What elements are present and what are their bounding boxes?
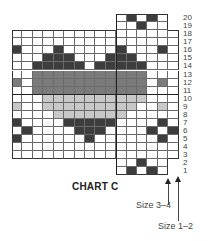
chart-cell <box>95 151 105 159</box>
chart-cell <box>85 135 95 143</box>
chart-cell <box>54 54 64 62</box>
chart-cell <box>54 119 64 127</box>
chart-cell <box>22 54 32 62</box>
chart-cell <box>95 46 105 54</box>
chart-cell <box>22 143 32 151</box>
chart-cell <box>116 38 126 46</box>
chart-cell <box>147 135 157 143</box>
row-number-label: 19 <box>183 22 192 30</box>
chart-cell <box>33 62 43 70</box>
chart-cell <box>43 95 53 103</box>
chart-cell <box>75 38 85 46</box>
chart-cell <box>127 62 137 70</box>
chart-cell <box>106 103 116 111</box>
row-number-label: 7 <box>183 119 187 127</box>
chart-cell <box>116 30 126 38</box>
chart-cell <box>54 30 64 38</box>
chart-cell <box>12 119 22 127</box>
chart-cell <box>33 151 43 159</box>
chart-cell <box>137 135 147 143</box>
chart-cell <box>85 79 95 87</box>
chart-cell <box>85 119 95 127</box>
row-number-label: 8 <box>183 111 187 119</box>
chart-cell <box>137 111 147 119</box>
row-number-label: 6 <box>183 127 187 135</box>
chart-cell <box>116 103 126 111</box>
chart-cell <box>75 95 85 103</box>
chart-cell <box>158 14 168 22</box>
chart-cell <box>85 127 95 135</box>
chart-cell <box>106 119 116 127</box>
chart-cell <box>168 119 178 127</box>
chart-cell <box>106 38 116 46</box>
chart-cell <box>158 30 168 38</box>
chart-cell <box>54 71 64 79</box>
chart-cell <box>33 38 43 46</box>
chart-cell <box>127 54 137 62</box>
chart-cell <box>137 54 147 62</box>
chart-cell <box>95 54 105 62</box>
chart-cell <box>75 111 85 119</box>
chart-cell <box>95 38 105 46</box>
chart-cell <box>147 79 157 87</box>
chart-cell <box>43 143 53 151</box>
chart-cell <box>95 119 105 127</box>
chart-cell <box>12 127 22 135</box>
chart-cell <box>22 111 32 119</box>
chart-cell <box>116 62 126 70</box>
chart-cell <box>116 135 126 143</box>
chart-cell <box>106 135 116 143</box>
chart-cell <box>33 46 43 54</box>
chart-cell <box>116 46 126 54</box>
chart-cell <box>12 46 22 54</box>
chart-cell <box>75 54 85 62</box>
chart-cell <box>22 135 32 143</box>
chart-cell <box>85 54 95 62</box>
chart-cell <box>168 135 178 143</box>
chart-cell <box>54 62 64 70</box>
chart-cell <box>22 30 32 38</box>
chart-cell <box>22 79 32 87</box>
chart-cell <box>168 54 178 62</box>
chart-cell <box>95 127 105 135</box>
chart-cell <box>22 127 32 135</box>
chart-cell <box>168 79 178 87</box>
chart-cell <box>147 54 157 62</box>
chart-cell <box>168 143 178 151</box>
chart-cell <box>64 30 74 38</box>
row-number-label: 16 <box>183 46 192 54</box>
chart-cell <box>147 62 157 70</box>
chart-cell <box>158 111 168 119</box>
chart-cell <box>22 95 32 103</box>
chart-cell <box>137 151 147 159</box>
chart-cell <box>95 95 105 103</box>
chart-cell <box>158 46 168 54</box>
chart-cell <box>43 38 53 46</box>
chart-cell <box>158 103 168 111</box>
row-divider-line <box>12 94 179 95</box>
chart-cell <box>64 103 74 111</box>
chart-cell <box>12 111 22 119</box>
size-3-4-arrow-icon <box>165 178 171 184</box>
row-number-label: 1 <box>183 167 187 175</box>
chart-cell <box>127 127 137 135</box>
chart-cell <box>147 46 157 54</box>
chart-cell <box>168 38 178 46</box>
chart-cell <box>147 103 157 111</box>
chart-cell <box>95 143 105 151</box>
chart-cell <box>137 30 147 38</box>
chart-cell <box>43 62 53 70</box>
chart-cell <box>12 135 22 143</box>
chart-cell <box>85 103 95 111</box>
chart-cell <box>106 111 116 119</box>
chart-cell <box>33 127 43 135</box>
chart-cell <box>106 62 116 70</box>
chart-cell <box>147 14 157 22</box>
chart-cell <box>116 95 126 103</box>
chart-cell <box>22 103 32 111</box>
chart-cell <box>75 30 85 38</box>
chart-cell <box>147 38 157 46</box>
chart-cell <box>168 127 178 135</box>
chart-cell <box>75 151 85 159</box>
chart-cell <box>116 54 126 62</box>
